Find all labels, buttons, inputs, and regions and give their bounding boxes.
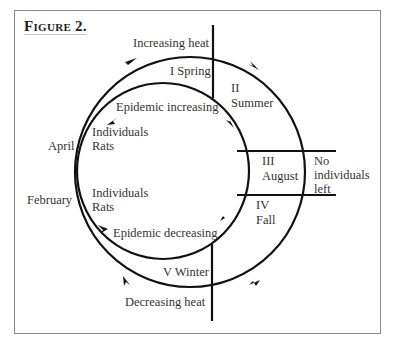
arrow-icon [107, 117, 118, 125]
label-summer-num: II [231, 81, 239, 96]
label-individuals-upper: Individuals [92, 125, 148, 140]
label-rats-lower: Rats [92, 200, 114, 215]
arrow-icon [220, 211, 226, 221]
arrow-icon [248, 61, 259, 70]
label-epidemic-decreasing: Epidemic decreasing [113, 226, 217, 241]
arrow-icon [125, 58, 137, 65]
label-april: April [48, 139, 74, 154]
label-epidemic-increasing: Epidemic increasing [116, 100, 218, 115]
label-no-individuals-3: left [314, 182, 331, 197]
label-august: August [262, 169, 298, 184]
label-individuals-lower: Individuals [92, 186, 148, 201]
label-winter: V Winter [163, 265, 209, 280]
label-decreasing-heat: Decreasing heat [125, 295, 205, 310]
label-summer: Summer [231, 96, 273, 111]
arrow-icon [123, 276, 130, 286]
label-no-individuals-2: individuals [314, 168, 370, 183]
label-no-individuals-1: No [314, 154, 329, 169]
arrow-icon [249, 280, 260, 286]
label-spring: I Spring [170, 64, 211, 79]
label-rats-upper: Rats [92, 139, 114, 154]
label-february: February [27, 193, 72, 208]
label-fall-num: IV [256, 198, 269, 213]
label-fall: Fall [256, 213, 275, 228]
label-august-num: III [262, 154, 275, 169]
label-increasing-heat: Increasing heat [133, 36, 209, 51]
